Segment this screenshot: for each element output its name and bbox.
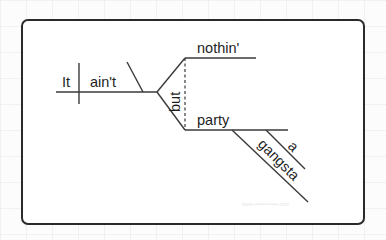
word-object-2: party [197, 112, 230, 128]
watermark: www.••••••••••••••.com [242, 201, 289, 207]
word-subject: It [62, 74, 70, 90]
fork-upper-branch [157, 58, 185, 92]
word-verb: ain't [90, 74, 116, 90]
word-modifier-a: a [285, 138, 303, 156]
sentence-diagram: It ain't nothin' party but a gangsta www… [0, 0, 386, 239]
object-slant [127, 62, 143, 92]
word-object-1: nothin' [197, 40, 240, 56]
word-conjunction: but [167, 92, 183, 112]
